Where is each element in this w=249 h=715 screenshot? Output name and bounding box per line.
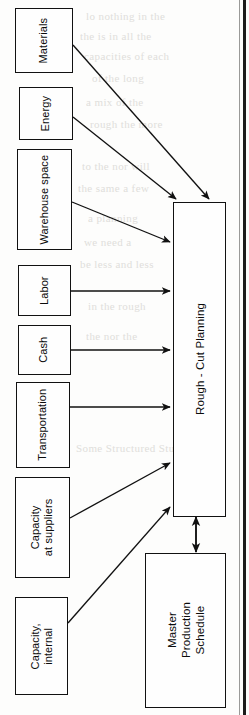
bleedthrough-text: a planning xyxy=(88,212,138,224)
node-labor[interactable]: Labor xyxy=(18,265,71,316)
bleedthrough-text: lo nothing in the xyxy=(86,10,165,22)
node-label: Transportation xyxy=(36,389,49,461)
bleedthrough-text: capacities of each xyxy=(84,50,169,62)
node-label: Warehouse space xyxy=(38,155,51,245)
bleedthrough-text: of the long xyxy=(92,72,144,84)
node-capacity-at-suppliers[interactable]: Capacity at suppliers xyxy=(15,477,70,578)
node-label-line1: Master xyxy=(165,613,177,649)
node-label: Materials xyxy=(37,18,50,64)
bleedthrough-text: Some Structured Stuff xyxy=(76,442,183,454)
node-label: Energy xyxy=(39,96,52,131)
page-edge-line xyxy=(243,0,246,715)
node-transportation[interactable]: Transportation xyxy=(16,382,70,468)
node-label-line2: Production xyxy=(179,603,191,659)
node-label-line3: Schedule xyxy=(194,606,206,655)
bleedthrough-text: the is in all the xyxy=(80,30,152,42)
bleedthrough-text: rough the more xyxy=(90,118,163,130)
bleedthrough-text: in the rough xyxy=(88,300,146,312)
node-label-line1: Capacity, xyxy=(28,623,40,669)
bleedthrough-text: a mix of the xyxy=(86,96,144,108)
node-materials[interactable]: Materials xyxy=(15,8,73,73)
node-rough-cut-planning[interactable]: Rough - Cut Planning xyxy=(173,202,226,517)
node-label: Labor xyxy=(38,276,51,305)
bleedthrough-text: the same a few xyxy=(78,182,149,194)
node-label-line1: Capacity xyxy=(29,506,41,550)
node-label-line2: internal xyxy=(42,628,54,665)
node-capacity-internal[interactable]: Capacity, internal xyxy=(15,597,68,695)
figure-page: lo nothing in the the is in all the capa… xyxy=(0,0,249,715)
node-energy[interactable]: Energy xyxy=(19,87,73,140)
node-label: Rough - Cut Planning xyxy=(192,304,206,416)
node-warehouse-space[interactable]: Warehouse space xyxy=(17,149,72,250)
bleedthrough-text: be less and less xyxy=(80,258,154,270)
node-label-line2: at suppliers xyxy=(43,499,55,556)
page-edge-highlight xyxy=(239,0,240,715)
bleedthrough-text: the nor the xyxy=(86,330,137,342)
bleedthrough-text: we need a xyxy=(84,236,132,248)
bleedthrough-text: to the nor will xyxy=(82,160,150,172)
node-cash[interactable]: Cash xyxy=(18,325,71,375)
link-capacity-suppliers-to-rough-cut xyxy=(70,463,170,518)
node-label: Cash xyxy=(38,337,51,363)
node-master-production-schedule[interactable]: Master Production Schedule xyxy=(145,553,226,708)
